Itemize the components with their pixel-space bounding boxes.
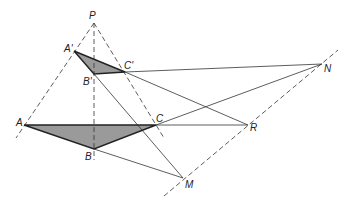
- label-p: P: [89, 10, 96, 21]
- label-m: M: [185, 179, 194, 190]
- line-c-to-n: [156, 64, 322, 125]
- triangle-abc-fill: [24, 125, 156, 149]
- line-a1c1-to-n: [125, 64, 322, 72]
- line-b-to-m: [94, 149, 183, 178]
- desargues-diagram: P A' B' C' A B C M R N: [0, 0, 347, 205]
- label-n: N: [324, 63, 332, 74]
- label-c: C: [156, 113, 164, 124]
- label-a1: A': [63, 43, 74, 54]
- label-r: R: [250, 122, 257, 133]
- label-b: B: [85, 151, 92, 162]
- line-c1-to-r: [125, 72, 248, 125]
- label-b1: B': [83, 76, 93, 87]
- label-c1: C': [124, 60, 134, 71]
- label-a: A: [15, 117, 23, 128]
- line-pc: [94, 23, 164, 138]
